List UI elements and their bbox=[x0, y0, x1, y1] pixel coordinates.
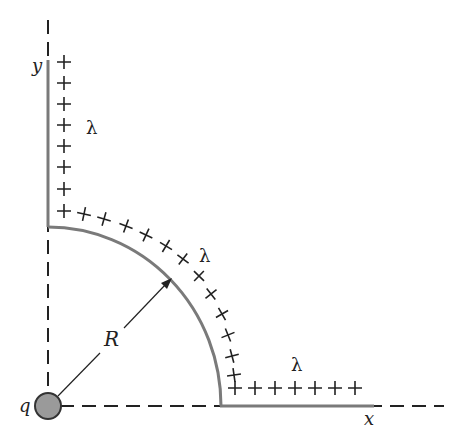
lambda-horizontal-label: λ bbox=[291, 354, 302, 375]
radius-line-upper bbox=[124, 284, 166, 328]
y-axis-label: y bbox=[31, 55, 43, 76]
arc-charges bbox=[76, 206, 242, 383]
radius-line-lower bbox=[58, 353, 100, 396]
point-charge-q bbox=[35, 393, 61, 419]
lambda-vertical-label: λ bbox=[86, 117, 97, 138]
vertical-rod-charges bbox=[57, 55, 71, 218]
radius-label: R bbox=[103, 327, 119, 351]
charge-label: q bbox=[19, 395, 31, 416]
x-axis-label: x bbox=[364, 408, 374, 429]
horizontal-rod-charges bbox=[228, 381, 362, 395]
lambda-arc-label: λ bbox=[199, 245, 210, 266]
charged-rod-diagram: y x R q λ λ λ bbox=[0, 0, 456, 448]
